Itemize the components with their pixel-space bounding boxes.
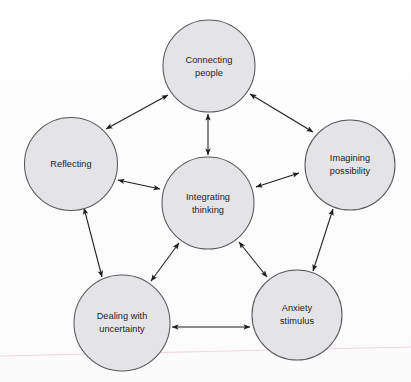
node-label-anxiety-stimulus-line2: stimulus bbox=[280, 316, 314, 326]
diagram-page: Connecting people Reflecting Imagining p… bbox=[0, 0, 411, 382]
connector-reflecting-integrating-thinking bbox=[118, 180, 160, 189]
connector-reflecting-connecting-people bbox=[106, 95, 168, 129]
node-label-dealing-with-uncertainty-line1: Dealing with bbox=[97, 311, 148, 321]
node-label-connecting-people-line2: people bbox=[195, 68, 223, 78]
node-label-imagining-possibility-line1: Imagining bbox=[330, 153, 370, 163]
connector-imagining-possibility-integrating-thinking bbox=[256, 173, 299, 187]
node-reflecting[interactable]: Reflecting bbox=[25, 118, 118, 211]
node-label-imagining-possibility-line2: possibility bbox=[330, 166, 371, 176]
node-circle-connecting-people[interactable] bbox=[163, 20, 255, 112]
node-label-anxiety-stimulus-line1: Anxiety bbox=[282, 303, 313, 313]
node-label-integrating-thinking-line2: thinking bbox=[192, 205, 224, 215]
node-label-reflecting-line1: Reflecting bbox=[50, 159, 91, 169]
node-circle-dealing-with-uncertainty[interactable] bbox=[74, 275, 170, 371]
node-label-connecting-people-line1: Connecting bbox=[186, 55, 233, 65]
node-label-dealing-with-uncertainty-line2: uncertainty bbox=[99, 324, 145, 334]
node-imagining-possibility[interactable]: Imagining possibility bbox=[305, 120, 395, 210]
node-circle-integrating-thinking[interactable] bbox=[162, 157, 254, 249]
connector-dealing-with-uncertainty-integrating-thinking bbox=[151, 243, 179, 281]
node-connecting-people[interactable]: Connecting people bbox=[163, 20, 255, 112]
node-circle-imagining-possibility[interactable] bbox=[305, 120, 395, 210]
connector-connecting-people-imagining-possibility bbox=[250, 94, 313, 132]
node-anxiety-stimulus[interactable]: Anxiety stimulus bbox=[252, 270, 342, 360]
node-label-integrating-thinking-line1: Integrating bbox=[186, 192, 230, 202]
connector-anxiety-stimulus-integrating-thinking bbox=[239, 242, 267, 277]
node-integrating-thinking[interactable]: Integrating thinking bbox=[162, 157, 254, 249]
scan-artifact-line bbox=[0, 347, 411, 356]
connector-imagining-possibility-anxiety-stimulus bbox=[313, 209, 333, 271]
node-link-diagram: Connecting people Reflecting Imagining p… bbox=[0, 0, 411, 382]
connector-reflecting-dealing-with-uncertainty bbox=[84, 208, 102, 277]
node-dealing-with-uncertainty[interactable]: Dealing with uncertainty bbox=[74, 275, 170, 371]
node-circle-anxiety-stimulus[interactable] bbox=[252, 270, 342, 360]
